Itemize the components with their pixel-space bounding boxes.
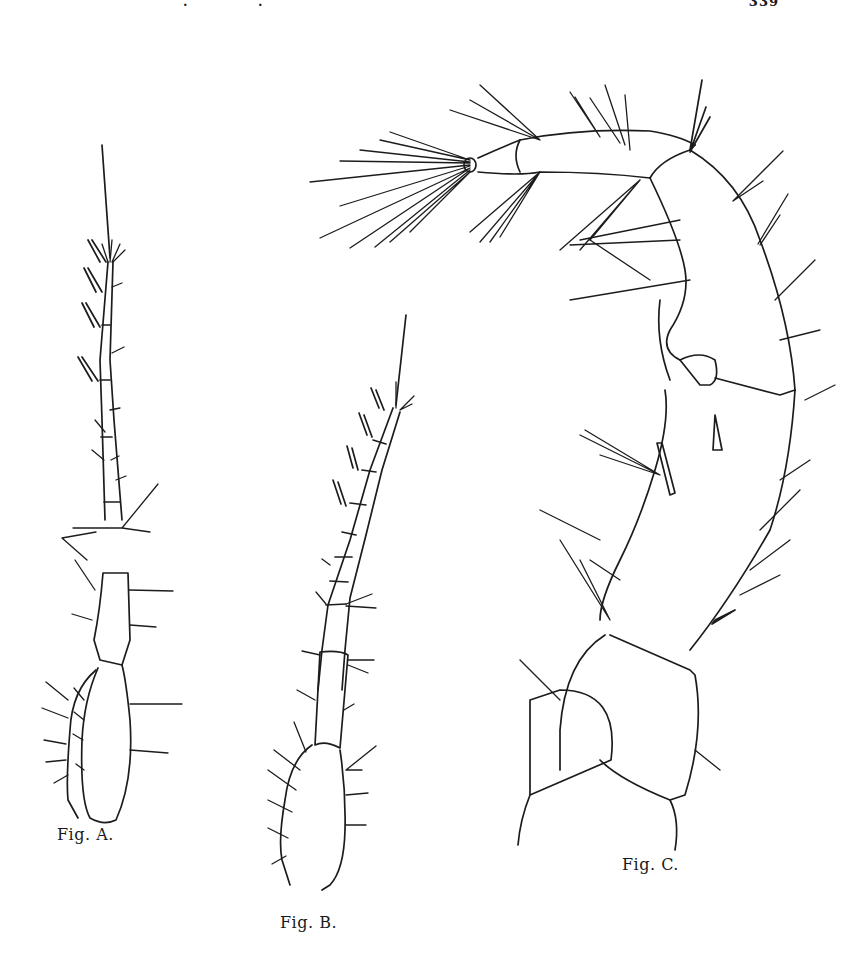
figure-plate [0, 0, 863, 961]
figure-b-caption: Fig. B. [280, 913, 337, 932]
figure-c-caption: Fig. C. [622, 855, 679, 874]
figure-a-drawing [42, 145, 182, 823]
figure-a-caption: Fig. A. [57, 825, 114, 844]
figure-c-drawing [310, 80, 835, 850]
figure-b-drawing [268, 315, 414, 890]
